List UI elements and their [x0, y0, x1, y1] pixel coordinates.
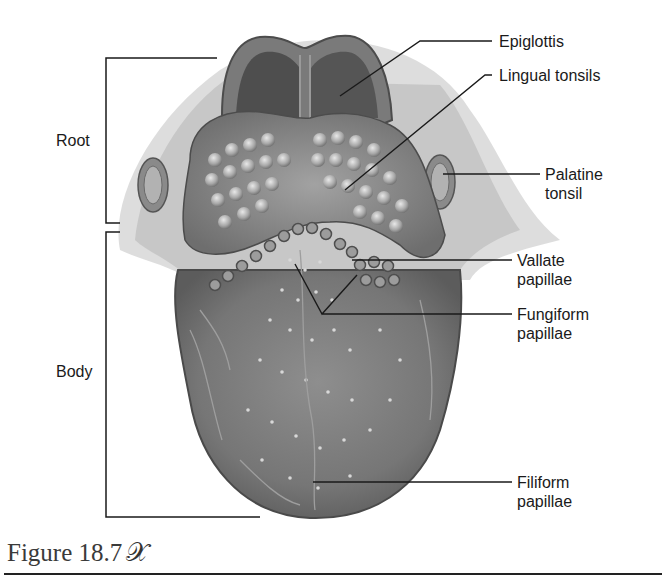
label-lingual-tonsils: Lingual tonsils: [499, 66, 600, 85]
figure-man-icon: 𝒳: [126, 538, 148, 567]
caption-text: Figure 18.7: [7, 539, 122, 566]
region-label-body: Body: [56, 362, 92, 381]
figure-caption: Figure 18.7𝒳: [7, 538, 148, 568]
region-label-root: Root: [56, 131, 90, 150]
label-filiform-papillae: Filiform papillae: [517, 473, 572, 511]
label-fungiform-papillae: Fungiform papillae: [517, 305, 589, 343]
label-epiglottis: Epiglottis: [499, 32, 564, 51]
caption-rule: [4, 573, 662, 575]
palatine-tonsil-left: [138, 158, 168, 212]
label-vallate-papillae: Vallate papillae: [517, 251, 572, 289]
label-palatine-tonsil: Palatine tonsil: [545, 165, 603, 203]
